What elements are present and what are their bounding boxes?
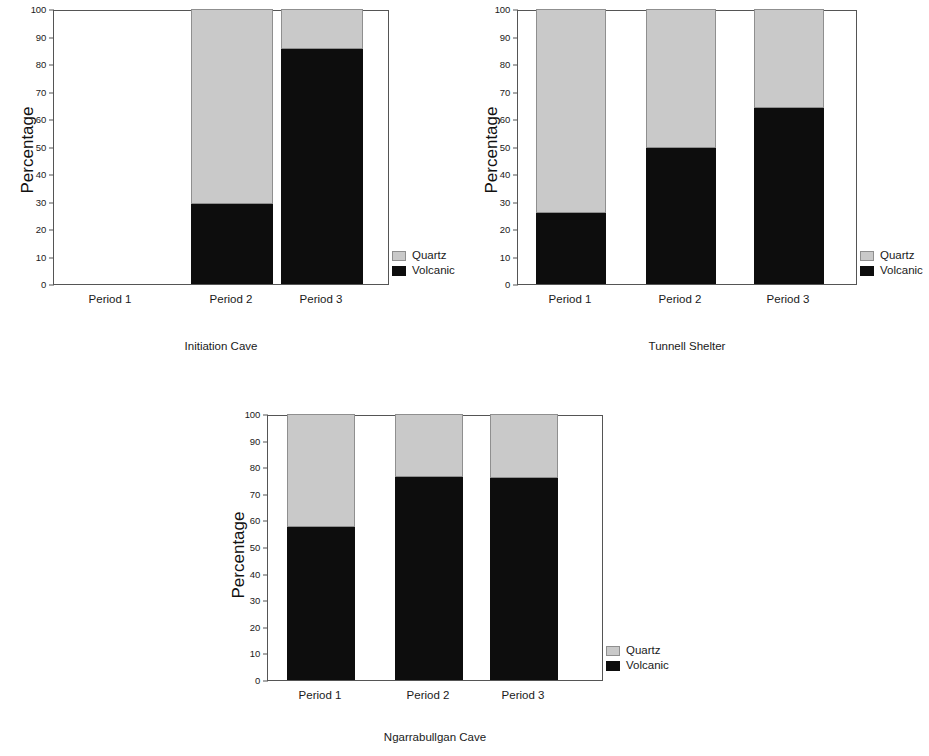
y-tick-label: 0 bbox=[255, 676, 260, 686]
y-tick-label: 90 bbox=[250, 437, 260, 447]
y-tick-label: 60 bbox=[500, 115, 510, 125]
y-tick-label: 100 bbox=[495, 5, 510, 15]
plot-area-2 bbox=[517, 10, 857, 285]
panel-caption-3: Ngarrabullgan Cave bbox=[267, 731, 603, 743]
y-tick-mark bbox=[49, 92, 54, 93]
panel-caption-2: Tunnell Shelter bbox=[517, 340, 857, 352]
y-tick-mark bbox=[49, 175, 54, 176]
y-tick-label: 10 bbox=[36, 253, 46, 263]
legend-label-quartz: Quartz bbox=[626, 645, 661, 657]
category-label: Period 2 bbox=[631, 293, 729, 305]
y-tick-mark bbox=[513, 202, 518, 203]
y-tick-mark bbox=[263, 548, 268, 549]
legend-swatch-volcanic-icon bbox=[392, 266, 406, 276]
legend-label-volcanic: Volcanic bbox=[626, 660, 669, 672]
legend-swatch-quartz-icon bbox=[392, 251, 406, 261]
y-tick-label: 40 bbox=[250, 570, 260, 580]
chart-panel-ngarrabullgan-cave: Percentage 0102030405060708090100 Period… bbox=[200, 395, 670, 756]
legend-label-volcanic: Volcanic bbox=[412, 265, 455, 277]
legend-row-quartz-1: Quartz bbox=[392, 248, 455, 263]
legend-2: Quartz Volcanic bbox=[860, 248, 923, 278]
legend-row-quartz-3: Quartz bbox=[606, 643, 669, 658]
category-label: Period 3 bbox=[739, 293, 837, 305]
y-tick-mark bbox=[263, 627, 268, 628]
y-tick-mark bbox=[49, 65, 54, 66]
y-tick-mark bbox=[263, 494, 268, 495]
legend-swatch-quartz-icon bbox=[860, 251, 874, 261]
bar-segment-quartz bbox=[395, 414, 463, 477]
y-tick-mark bbox=[49, 147, 54, 148]
legend-label-quartz: Quartz bbox=[880, 250, 915, 262]
stacked-bar bbox=[281, 9, 363, 284]
y-tick-mark bbox=[49, 285, 54, 286]
bar-segment-quartz bbox=[490, 414, 558, 478]
y-tick-label: 30 bbox=[250, 596, 260, 606]
plot-area-1 bbox=[53, 10, 389, 285]
legend-swatch-quartz-icon bbox=[606, 646, 620, 656]
y-tick-label: 100 bbox=[245, 410, 260, 420]
y-tick-label: 40 bbox=[500, 170, 510, 180]
y-tick-label: 50 bbox=[250, 543, 260, 553]
stacked-bar bbox=[395, 414, 463, 680]
legend-1: Quartz Volcanic bbox=[392, 248, 455, 278]
legend-row-volcanic-2: Volcanic bbox=[860, 263, 923, 278]
y-tick-mark bbox=[513, 65, 518, 66]
legend-3: Quartz Volcanic bbox=[606, 643, 669, 673]
y-tick-mark bbox=[49, 257, 54, 258]
y-tick-label: 90 bbox=[36, 33, 46, 43]
y-tick-mark bbox=[513, 92, 518, 93]
bar-segment-quartz bbox=[281, 9, 363, 49]
y-tick-label: 10 bbox=[500, 253, 510, 263]
bar-segment-volcanic bbox=[191, 204, 273, 284]
y-tick-mark bbox=[263, 521, 268, 522]
y-tick-label: 60 bbox=[250, 517, 260, 527]
y-tick-label: 10 bbox=[250, 650, 260, 660]
y-tick-label: 70 bbox=[36, 88, 46, 98]
category-label: Period 3 bbox=[475, 689, 571, 701]
y-tick-mark bbox=[513, 10, 518, 11]
bar-segment-volcanic bbox=[646, 148, 716, 284]
panel-caption-1: Initiation Cave bbox=[53, 340, 389, 352]
stacked-bar bbox=[536, 9, 606, 284]
bar-segment-volcanic bbox=[281, 49, 363, 284]
bar-segment-quartz bbox=[287, 414, 355, 527]
stacked-bar bbox=[287, 414, 355, 680]
legend-row-volcanic-1: Volcanic bbox=[392, 263, 455, 278]
y-tick-mark bbox=[263, 654, 268, 655]
y-tick-mark bbox=[49, 120, 54, 121]
y-axis-1: 0102030405060708090100 bbox=[53, 10, 54, 285]
y-tick-mark bbox=[263, 415, 268, 416]
category-label: Period 2 bbox=[380, 689, 476, 701]
y-tick-mark bbox=[49, 202, 54, 203]
stacked-bar bbox=[191, 9, 273, 284]
y-tick-mark bbox=[263, 681, 268, 682]
legend-row-volcanic-3: Volcanic bbox=[606, 658, 669, 673]
y-tick-mark bbox=[49, 10, 54, 11]
y-tick-mark bbox=[49, 37, 54, 38]
category-label: Period 1 bbox=[55, 293, 165, 305]
y-tick-label: 30 bbox=[500, 198, 510, 208]
y-tick-mark bbox=[513, 285, 518, 286]
y-tick-label: 20 bbox=[500, 225, 510, 235]
y-tick-label: 40 bbox=[36, 170, 46, 180]
category-label: Period 3 bbox=[266, 293, 376, 305]
y-tick-mark bbox=[263, 574, 268, 575]
bar-segment-quartz bbox=[191, 9, 273, 204]
bar-segment-volcanic bbox=[754, 108, 824, 284]
y-tick-label: 70 bbox=[250, 490, 260, 500]
y-axis-3: 0102030405060708090100 bbox=[267, 415, 268, 681]
y-tick-mark bbox=[513, 230, 518, 231]
bar-segment-volcanic bbox=[490, 478, 558, 680]
plot-area-3 bbox=[267, 415, 603, 681]
bar-segment-volcanic bbox=[395, 477, 463, 680]
bar-segment-quartz bbox=[646, 9, 716, 148]
y-tick-mark bbox=[263, 468, 268, 469]
stacked-bar bbox=[646, 9, 716, 284]
bar-segment-quartz bbox=[754, 9, 824, 108]
category-label: Period 1 bbox=[521, 293, 619, 305]
y-tick-label: 0 bbox=[505, 280, 510, 290]
y-tick-label: 60 bbox=[36, 115, 46, 125]
y-tick-mark bbox=[513, 175, 518, 176]
stacked-bar bbox=[754, 9, 824, 284]
legend-label-volcanic: Volcanic bbox=[880, 265, 923, 277]
